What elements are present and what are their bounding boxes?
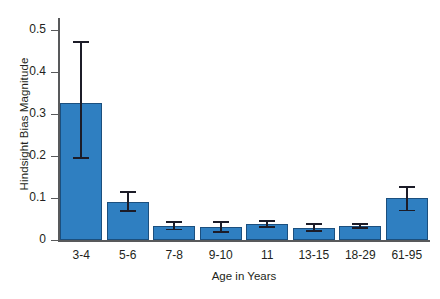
error-bar-line [80, 41, 82, 158]
x-axis-tick-label: 13-15 [291, 248, 338, 262]
y-axis-tick-label: 0.4 [29, 64, 46, 78]
y-axis-tick: 0.3 [51, 114, 58, 115]
error-bar-cap-top [399, 186, 415, 188]
y-axis-tick: 0.5 [51, 30, 58, 31]
error-bar-cap-bottom [399, 210, 415, 212]
x-axis-line [58, 240, 430, 242]
bar-group [339, 18, 381, 240]
y-axis-tick-label: 0.1 [29, 190, 46, 204]
bar-group [107, 18, 149, 240]
bar-group [153, 18, 195, 240]
error-bar-cap-top [120, 191, 136, 193]
error-bar-cap-top [213, 221, 229, 223]
x-axis-tick-label: 7-8 [151, 248, 198, 262]
y-axis-tick: 0.2 [51, 156, 58, 157]
x-axis-title: Age in Years [58, 270, 430, 282]
error-bar-cap-bottom [73, 157, 89, 159]
error-bar-cap-top [352, 223, 368, 225]
error-bar-cap-bottom [213, 231, 229, 233]
y-axis-tick-label: 0.3 [29, 106, 46, 120]
error-bar-cap-bottom [352, 227, 368, 229]
y-axis-title: Hindsight Bias Magnitude [18, 14, 30, 234]
x-axis-tick-label: 9-10 [198, 248, 245, 262]
x-axis-tick-label: 3-4 [58, 248, 105, 262]
x-axis-tick-label: 18-29 [337, 248, 384, 262]
error-bar-cap-bottom [166, 229, 182, 231]
y-axis-tick: 0.4 [51, 72, 58, 73]
y-axis-tick: 0.1 [51, 198, 58, 199]
y-axis-tick: 0 [51, 240, 58, 241]
y-axis-tick-label: 0 [39, 232, 46, 246]
bar-group [60, 18, 102, 240]
error-bar-cap-top [306, 223, 322, 225]
error-bar-cap-bottom [259, 226, 275, 228]
bar-chart-figure: Hindsight Bias Magnitude 00.10.20.30.40.… [0, 0, 440, 299]
plot-area: 00.10.20.30.40.5 [58, 18, 430, 242]
error-bar-cap-bottom [306, 230, 322, 232]
x-axis-tick-label: 11 [244, 248, 291, 262]
bar-group [246, 18, 288, 240]
x-axis-tick-label: 5-6 [105, 248, 152, 262]
bar-group [200, 18, 242, 240]
x-axis-tick-label: 61-95 [384, 248, 431, 262]
error-bar-cap-top [166, 221, 182, 223]
error-bar-line [406, 186, 408, 212]
bar-group [386, 18, 428, 240]
y-axis-tick-label: 0.5 [29, 22, 46, 36]
error-bar-cap-top [259, 220, 275, 222]
bar-group [293, 18, 335, 240]
error-bar-cap-top [73, 41, 89, 43]
error-bar-cap-bottom [120, 210, 136, 212]
error-bar-line [127, 191, 129, 212]
y-axis-tick-label: 0.2 [29, 148, 46, 162]
